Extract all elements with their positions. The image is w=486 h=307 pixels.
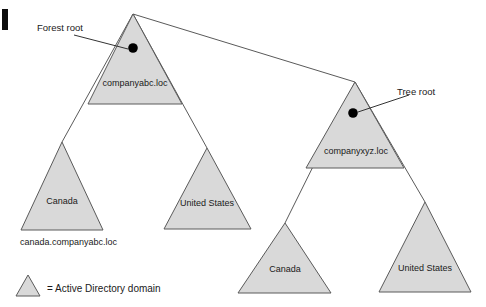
domain-label-canada-abc: Canada xyxy=(46,196,78,206)
domain-triangle-canada-abc[interactable] xyxy=(21,142,103,230)
forest-to-tree-link xyxy=(133,14,355,82)
annotation-tree-root: Tree root xyxy=(397,86,436,97)
domain-label-companyabc: companyabc.loc xyxy=(102,78,168,88)
domain-triangle-us-xyz[interactable] xyxy=(379,202,471,292)
domain-triangle-canada-xyz[interactable] xyxy=(238,223,331,293)
domain-label-us-abc: United States xyxy=(180,198,235,208)
annotation-forest-root: Forest root xyxy=(37,22,83,33)
domain-label-companyxyz: companyxyz.loc xyxy=(324,146,389,156)
tree-root-dot xyxy=(348,108,358,118)
legend-label: = Active Directory domain xyxy=(47,283,161,294)
forest-root-dot xyxy=(128,43,138,53)
caption-canada-fqdn: canada.companyabc.loc xyxy=(20,237,118,247)
domain-label-canada-xyz: Canada xyxy=(269,264,301,274)
domain-label-us-xyz: United States xyxy=(398,263,453,273)
diagram-canvas: companyabc.loc Forest root Canada canada… xyxy=(0,0,486,307)
page-corner-marker xyxy=(2,9,8,30)
domain-triangle-companyabc[interactable] xyxy=(88,14,182,104)
domain-triangle-us-abc[interactable] xyxy=(164,148,251,229)
active-directory-forest-diagram: companyabc.loc Forest root Canada canada… xyxy=(0,0,486,307)
legend-triangle-icon xyxy=(16,275,40,296)
